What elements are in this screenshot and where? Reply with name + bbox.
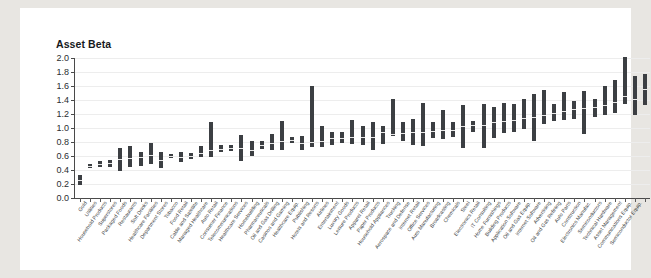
median-tick: [310, 142, 314, 143]
x-axis-category-labels: GoldUtilitiesHousehold ProductsSuperstor…: [75, 200, 650, 278]
range-bar: [593, 99, 597, 117]
chart-title: Asset Beta: [56, 38, 111, 50]
y-axis-tick-label: 1.4: [56, 95, 69, 105]
y-axis-tick-label: 0.0: [56, 193, 69, 203]
range-bar: [502, 103, 506, 133]
median-tick: [128, 158, 132, 159]
median-tick: [330, 138, 334, 139]
range-bar: [421, 103, 425, 146]
range-bar: [431, 122, 435, 138]
median-tick: [572, 109, 576, 110]
median-tick: [603, 105, 607, 106]
median-tick: [88, 166, 92, 167]
range-bar: [562, 92, 566, 120]
range-bar: [340, 132, 344, 144]
median-tick: [179, 157, 183, 158]
y-axis-tick-label: 0.2: [56, 179, 69, 189]
median-tick: [613, 102, 617, 103]
median-tick: [502, 121, 506, 122]
range-bar: [239, 135, 243, 161]
median-tick: [401, 133, 405, 134]
median-tick: [219, 149, 223, 150]
median-tick: [270, 143, 274, 144]
range-bar: [542, 90, 546, 124]
range-bar: [401, 122, 405, 141]
range-bar: [209, 122, 213, 157]
y-axis-tick-label: 0.8: [56, 137, 69, 147]
y-axis-tick: [71, 198, 75, 199]
median-tick: [189, 156, 193, 157]
range-bar: [280, 121, 284, 150]
range-bar: [320, 126, 324, 147]
median-tick: [300, 143, 304, 144]
median-tick: [512, 120, 516, 121]
range-bar: [633, 76, 637, 115]
figure-paper: Asset Beta 0.00.20.40.60.81.01.21.41.61.…: [20, 8, 631, 270]
range-bar: [330, 132, 334, 145]
range-bar: [492, 107, 496, 138]
range-bar: [169, 154, 173, 158]
range-bar: [381, 126, 385, 144]
range-bar: [229, 145, 233, 151]
median-tick: [451, 130, 455, 131]
median-tick: [250, 150, 254, 151]
median-tick: [542, 115, 546, 116]
median-tick: [552, 113, 556, 114]
range-bar: [643, 74, 647, 105]
range-bar: [361, 126, 365, 145]
range-bar: [582, 91, 586, 134]
median-tick: [431, 131, 435, 132]
screenshot-root: a ghosted line of reversed print showing…: [0, 0, 651, 278]
y-axis-tick-label: 1.6: [56, 81, 69, 91]
y-axis-tick-label: 0.6: [56, 151, 69, 161]
median-tick: [371, 137, 375, 138]
range-bar: [219, 145, 223, 152]
range-bar: [78, 175, 82, 185]
median-tick: [633, 99, 637, 100]
median-tick: [361, 137, 365, 138]
median-tick: [643, 89, 647, 90]
range-bar: [88, 164, 92, 168]
range-bar: [179, 152, 183, 162]
range-bar: [260, 141, 264, 149]
median-tick: [290, 140, 294, 141]
range-bar: [159, 152, 163, 168]
range-bar: [108, 160, 112, 168]
median-tick: [623, 96, 627, 97]
median-tick: [562, 111, 566, 112]
median-tick: [78, 180, 82, 181]
y-axis-tick: [71, 72, 75, 73]
median-tick: [159, 160, 163, 161]
y-axis-tick: [71, 86, 75, 87]
y-axis-tick-label: 1.8: [56, 67, 69, 77]
median-tick: [441, 130, 445, 131]
range-bar: [512, 104, 516, 132]
range-bar: [552, 104, 556, 121]
y-axis-tick-label: 1.2: [56, 109, 69, 119]
median-tick: [320, 141, 324, 142]
median-tick: [350, 137, 354, 138]
range-bar: [441, 110, 445, 139]
median-tick: [108, 163, 112, 164]
median-tick: [209, 150, 213, 151]
y-axis-tick: [71, 184, 75, 185]
median-tick: [582, 108, 586, 109]
range-bar: [411, 119, 415, 146]
range-bar: [189, 153, 193, 159]
range-bar: [149, 143, 153, 163]
median-tick: [532, 117, 536, 118]
median-tick: [411, 132, 415, 133]
range-bar: [451, 122, 455, 137]
median-tick: [461, 126, 465, 127]
median-tick: [239, 148, 243, 149]
y-axis-tick-label: 1.0: [56, 123, 69, 133]
median-tick: [381, 132, 385, 133]
range-bar: [118, 148, 122, 171]
y-axis-tick: [71, 114, 75, 115]
median-tick: [471, 125, 475, 126]
range-bar: [391, 99, 395, 136]
y-axis-tick: [71, 156, 75, 157]
range-bar: [139, 152, 143, 166]
median-tick: [139, 157, 143, 158]
range-bar: [532, 94, 536, 142]
